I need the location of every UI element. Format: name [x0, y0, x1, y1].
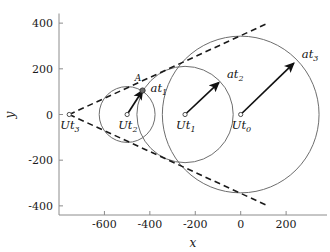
x-tick-label: -200: [183, 218, 208, 231]
axes: -600-400-2000200-400-2000200400at3at2at1…: [28, 14, 327, 232]
center-marker-Ut3: [67, 112, 71, 116]
point-A: A: [134, 73, 142, 83]
y-tick-label: 200: [32, 63, 53, 76]
y-tick-label: 400: [32, 17, 53, 30]
point-A-marker: [140, 88, 145, 93]
x-tick-label: 0: [237, 218, 244, 231]
x-tick-label: -600: [92, 218, 117, 231]
x-tick-label: 200: [276, 218, 297, 231]
vector-at2: [185, 83, 219, 115]
x-axis-title: x: [190, 236, 197, 250]
center-marker-Ut2: [125, 112, 129, 116]
vector-at3: [241, 63, 294, 114]
vector-label-at2: at2: [227, 67, 244, 83]
vector-at1: [127, 91, 142, 115]
y-tick-label: 0: [46, 109, 53, 122]
vector-label-at1: at1: [151, 81, 168, 97]
center-marker-Ut1: [183, 112, 187, 116]
figure-canvas: -600-400-2000200-400-2000200400at3at2at1…: [0, 0, 330, 252]
plot-area: [69, 23, 319, 206]
center-label-Ut2: Ut2: [118, 118, 137, 134]
vector-label-at3: at3: [302, 47, 319, 63]
center-marker-Ut0: [239, 112, 243, 116]
center-label-Ut1: Ut1: [176, 118, 195, 134]
x-tick-label: -400: [137, 218, 162, 231]
y-axis-title: y: [3, 111, 17, 119]
y-tick-label: -200: [28, 154, 53, 167]
y-tick-label: -400: [28, 200, 53, 213]
center-label-Ut0: Ut0: [232, 118, 251, 134]
center-label-Ut3: Ut3: [60, 118, 79, 134]
